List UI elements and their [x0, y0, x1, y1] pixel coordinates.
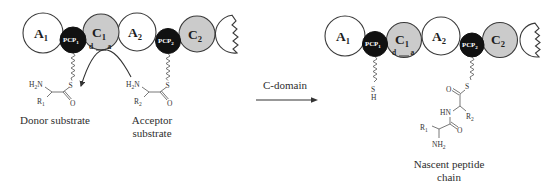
- acceptor-amine: H2N: [126, 80, 140, 90]
- nascent-peptide-label-line2: chain: [437, 171, 461, 183]
- acceptor-substrate-label-line2: substrate: [132, 127, 171, 139]
- peptide-thioester-oxygen: O: [446, 85, 452, 94]
- donor-substrate-label: Donor substrate: [20, 114, 90, 126]
- acceptor-substrate-structure: H2N S O R2: [126, 80, 173, 108]
- acceptor-side-chain: R2: [134, 97, 142, 107]
- donor-side-chain: R1: [37, 97, 45, 107]
- acceptor-substrate-label-line1: Acceptor: [132, 114, 173, 126]
- reaction-label: C-domain: [263, 79, 307, 91]
- peptide-side-chain-r2: R2: [466, 112, 474, 122]
- acceptor-bonds: [142, 87, 168, 100]
- peptide-thioester-sulfur: S: [465, 82, 469, 91]
- peptide-side-chain-r1: R1: [420, 123, 428, 133]
- right-module: A1 PCP1 C1 A2 PCP2 C2 d a S H S O HN R2 …: [325, 16, 540, 183]
- right-pcp2-ppant-arm: [470, 57, 474, 80]
- donor-thioester-sulfur: S: [69, 81, 73, 90]
- left-pcp2-ppant-arm: [166, 54, 170, 81]
- nrps-condensation-diagram: A1 PCP1 C1 A2 PCP2 C2 d a H2N S O R1 H2N…: [0, 0, 560, 188]
- acceptor-thioester-sulfur: S: [166, 81, 170, 90]
- nucleophilic-attack-arrow: [81, 50, 131, 86]
- right-pcp1-ppant-arm: [373, 57, 377, 83]
- reaction-arrow-group: C-domain: [256, 79, 318, 103]
- peptide-amide-oxygen: O: [457, 126, 463, 135]
- donor-carbonyl-oxygen: O: [70, 99, 76, 108]
- acceptor-carbonyl-oxygen: O: [167, 99, 173, 108]
- left-module: A1 PCP1 C1 A2 PCP2 C2 d a H2N S O R1 H2N…: [20, 13, 238, 139]
- free-thiol-hydrogen: H: [371, 93, 377, 102]
- nascent-peptide-structure: S O HN R2 O R1 NH2: [420, 82, 474, 150]
- peptide-n-terminus: NH2: [432, 140, 446, 150]
- nascent-peptide-label-line1: Nascent peptide: [414, 158, 485, 170]
- donor-bonds: [45, 87, 71, 100]
- donor-amine: H2N: [29, 80, 43, 90]
- right-c1-acceptor-site-label: a: [411, 48, 415, 57]
- left-pcp1-ppant-arm: [71, 53, 75, 81]
- reaction-arrow-head-icon: [311, 97, 318, 102]
- right-next-module-partial: [520, 23, 540, 57]
- donor-substrate-structure: H2N S O R1: [29, 80, 76, 108]
- left-next-module-partial: [215, 15, 238, 53]
- peptide-amide-nh: HN: [440, 108, 451, 117]
